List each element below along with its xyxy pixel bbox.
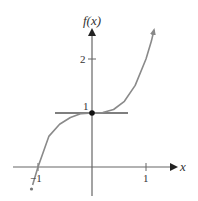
x-axis-label: x [179, 159, 186, 174]
y-axis-label: f(x) [83, 13, 101, 28]
x-tick-label-neg1: −1 [30, 172, 42, 184]
tangent-point [89, 110, 95, 116]
function-curve [33, 30, 154, 185]
y-tick-label-1: 1 [83, 100, 89, 112]
x-tick-label-1: 1 [143, 172, 149, 184]
function-graph: f(x) x 2 1 −1 1 [0, 0, 198, 201]
y-tick-label-2: 2 [80, 53, 86, 65]
curve-start-dot [30, 187, 33, 190]
